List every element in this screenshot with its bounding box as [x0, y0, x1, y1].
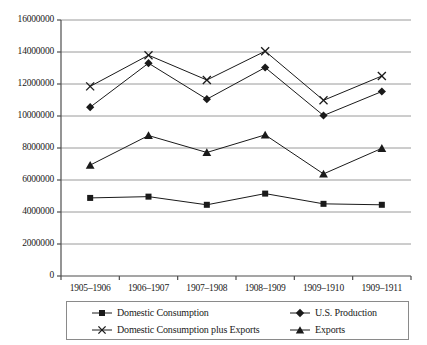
triangle-marker-icon — [289, 324, 311, 336]
x-axis-tick-label: 1907–1908 — [186, 284, 227, 294]
x-axis-tick-label: 1909–1911 — [362, 284, 403, 294]
legend-label: Domestic Consumption — [117, 308, 209, 318]
chart-legend: Domestic Consumption U.S. Production Dom… — [66, 301, 409, 340]
x-axis-tick-label: 1908–1909 — [245, 284, 286, 294]
x-axis-tick-label: 1905–1906 — [70, 284, 111, 294]
legend-entry-exports: Exports — [289, 321, 345, 339]
x-axis-tick-label: 1906–1907 — [128, 284, 169, 294]
diamond-marker-icon — [289, 307, 311, 319]
legend-entry-domestic-consumption: Domestic Consumption — [91, 304, 209, 322]
plot-area: 0200000040000006000000800000010000000120… — [0, 0, 427, 300]
square-marker-icon — [91, 307, 113, 319]
legend-label: U.S. Production — [315, 308, 377, 318]
legend-entry-domestic-consumption-plus-exports: Domestic Consumption plus Exports — [91, 321, 260, 339]
x-axis-tick-label: 1909–1910 — [303, 284, 344, 294]
legend-label: Exports — [315, 325, 345, 335]
x-marker-icon — [91, 324, 113, 336]
legend-label: Domestic Consumption plus Exports — [117, 325, 260, 335]
chart-figure: 0200000040000006000000800000010000000120… — [0, 0, 427, 345]
legend-row: Domestic Consumption U.S. Production — [67, 304, 408, 322]
legend-row: Domestic Consumption plus Exports Export… — [67, 321, 408, 339]
legend-entry-us-production: U.S. Production — [289, 304, 377, 322]
x-axis-tick-labels: 1905–19061906–19071907–19081908–19091909… — [0, 0, 427, 300]
